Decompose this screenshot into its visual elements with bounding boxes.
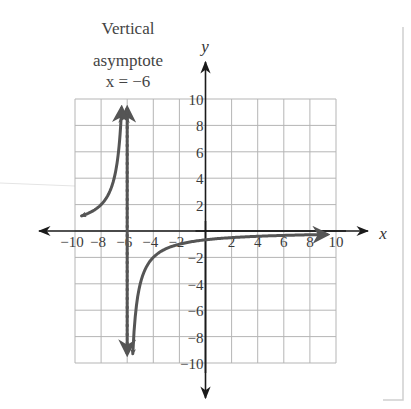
axes	[39, 62, 368, 398]
annotation-line-1: Vertical	[102, 19, 155, 38]
x-tick-label: 8	[306, 234, 314, 250]
y-tick-label: −6	[188, 303, 204, 319]
asymptote-annotation: Vertical asymptote x = −6	[93, 19, 163, 91]
y-tick-label: 10	[189, 92, 204, 108]
y-tick-label: 8	[196, 118, 204, 134]
y-tick-label: −2	[188, 250, 204, 266]
page-border	[383, 27, 403, 400]
y-axis-label: y	[199, 37, 209, 56]
y-tick-label: −8	[188, 330, 204, 346]
graph-figure: −10−8−6−4−2246810108642−2−4−6−8−10 Verti…	[0, 0, 411, 409]
curve-right-branch	[133, 234, 327, 353]
x-tick-label: −8	[90, 234, 106, 250]
annotation-line-2: asymptote	[93, 51, 163, 70]
y-tick-label: 2	[196, 198, 204, 214]
y-tick-label: −4	[188, 277, 204, 293]
scan-artifact-line	[0, 183, 75, 186]
x-tick-label: −6	[116, 234, 132, 250]
y-tick-label: −10	[180, 356, 203, 372]
x-tick-label: −4	[142, 234, 158, 250]
y-tick-label: 4	[196, 171, 204, 187]
x-tick-label: −10	[60, 234, 83, 250]
tick-labels: −10−8−6−4−2246810108642−2−4−6−8−10	[60, 92, 343, 372]
x-tick-label: 10	[329, 234, 344, 250]
x-axis-label: x	[378, 224, 387, 243]
annotation-line-3: x = −6	[106, 72, 151, 91]
y-tick-label: 6	[196, 145, 204, 161]
